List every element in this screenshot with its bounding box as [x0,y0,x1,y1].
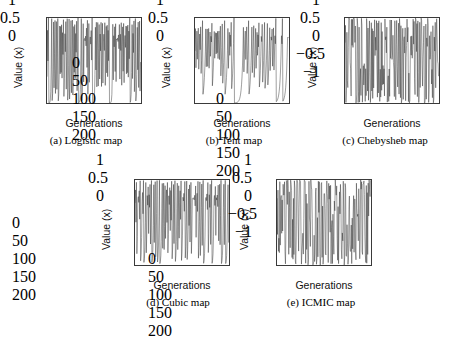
y-tick-label: 0 [0,27,16,45]
panel-caption-icmic: (e) ICMIC map [246,297,396,308]
y-tick-label: 1 [0,0,16,9]
y-tick-label: 0.5 [228,169,252,187]
x-tick-label: 0 [12,214,164,232]
x-axis-label-chebysheb: Generations [344,118,440,129]
y-tick-label: −0.5 [228,205,252,223]
x-tick-label: 50 [12,232,164,250]
y-tick-label: 0 [296,27,320,45]
x-tick-label: 0 [72,54,224,72]
y-tick-label: 0 [228,187,252,205]
y-tick-label: 0 [88,187,104,205]
y-tick-label: 1 [296,0,320,9]
y-tick-label: 1 [88,151,104,169]
x-tick-label: 0 [0,54,76,72]
x-tick-label: 100 [72,90,224,108]
panel-caption-chebysheb: (c) Chebysheb map [310,135,456,146]
x-tick-label: 100 [0,90,76,108]
y-tick-label: 0.5 [0,9,16,27]
x-tick-label: 200 [148,322,308,340]
x-tick-label: 50 [0,72,76,90]
y-tick-label: −0.5 [296,45,320,63]
y-tick-label: 0.5 [148,9,164,27]
x-tick-label: 50 [72,72,224,90]
x-axis-label-icmic: Generations [276,280,372,291]
y-tick-label: −1 [228,223,252,241]
panel-icmic: Value (x) 1 0.5 0 −0.5 −1 0 50 100 150 2… [228,160,388,314]
y-tick-label: 1 [148,0,164,9]
x-tick-label: 0 [216,90,376,108]
y-tick-label: 0.5 [88,169,104,187]
x-tick-label: 0 [148,250,308,268]
y-tick-label: −1 [296,63,320,81]
y-tick-label: 0.5 [296,9,320,27]
panel-chebysheb: Value (x) 1 0.5 0 −0.5 −1 0 50 100 150 2… [296,0,456,152]
y-tick-label: 0 [148,27,164,45]
y-tick-label: 1 [228,151,252,169]
x-tick-label: 100 [12,250,164,268]
